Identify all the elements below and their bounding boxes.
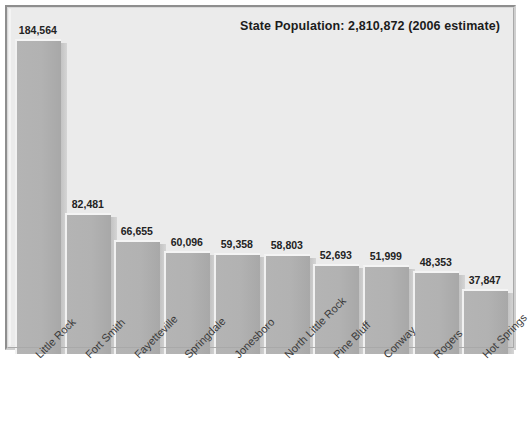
bar-value-label: 48,353 <box>413 256 459 268</box>
bar-value-label: 52,693 <box>313 249 359 261</box>
bar[interactable] <box>15 39 61 354</box>
bar-value-label: 184,564 <box>15 24 61 36</box>
bar-value-label: 60,096 <box>164 236 210 248</box>
bar-value-label: 66,655 <box>114 225 160 237</box>
bar-slot: 51,999 <box>363 14 409 354</box>
category-axis: Little RockFort SmithFayettevilleSpringd… <box>0 352 523 442</box>
bar-value-label: 51,999 <box>363 250 409 262</box>
bar-value-label: 58,803 <box>264 239 310 251</box>
bar-slot: 60,096 <box>164 14 210 354</box>
bar-slot: 66,655 <box>114 14 160 354</box>
bar-slot: 59,358 <box>214 14 260 354</box>
bar-value-label: 59,358 <box>214 238 260 250</box>
bar-slot: 58,803 <box>264 14 310 354</box>
chart-frame: State Population: 2,810,872 (2006 estima… <box>5 5 516 350</box>
bar-plot-area: 184,56482,48166,65560,09659,35858,80352,… <box>14 14 511 354</box>
bar-slot: 82,481 <box>65 14 111 354</box>
bar-value-label: 82,481 <box>65 198 111 210</box>
bar-slot: 37,847 <box>462 14 508 354</box>
bar-slot: 48,353 <box>413 14 459 354</box>
bar-value-label: 37,847 <box>462 274 508 286</box>
bar-slot: 184,564 <box>15 14 61 354</box>
